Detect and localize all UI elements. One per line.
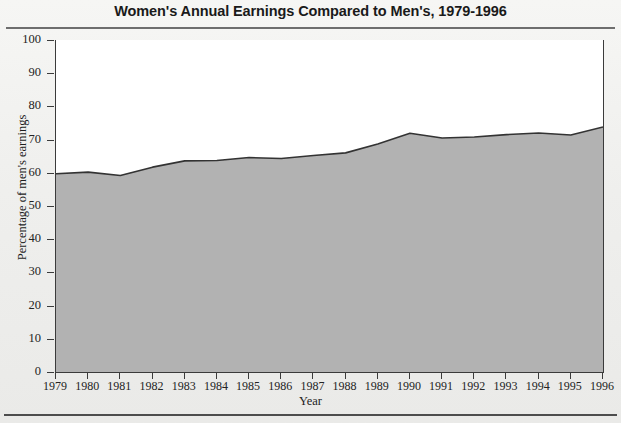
area-series-fill [56,127,603,372]
y-tick-mark [47,206,54,207]
title-divider-rule [6,27,615,29]
y-tick-mark [47,73,54,74]
x-axis-label: Year [0,394,621,409]
x-tick-mark [473,373,474,379]
bottom-divider-rule [4,414,617,416]
x-tick-mark [152,373,153,379]
x-tick-mark [280,373,281,379]
y-tick-mark [47,173,54,174]
x-tick-mark [216,373,217,379]
plot-area [55,40,604,373]
x-tick-mark [184,373,185,379]
y-tick-mark [47,272,54,273]
x-tick-mark [312,373,313,379]
x-tick-mark [570,373,571,379]
x-tick-mark [87,373,88,379]
x-tick-mark [345,373,346,379]
chart-figure: Women's Annual Earnings Compared to Men'… [0,0,621,423]
y-tick-mark [47,106,54,107]
y-axis-label: Percentage of men's earnings [15,68,30,308]
x-tick-mark [409,373,410,379]
y-tick-mark [47,372,54,373]
x-tick-mark [55,373,56,379]
x-tick-label: 1996 [582,379,621,394]
y-tick-label: 10 [9,331,41,346]
title-bar: Women's Annual Earnings Compared to Men'… [0,0,621,30]
y-tick-label: 0 [9,364,41,379]
y-tick-mark [47,306,54,307]
x-tick-mark [377,373,378,379]
y-tick-mark [47,239,54,240]
x-tick-mark [441,373,442,379]
x-tick-mark [248,373,249,379]
x-tick-mark [119,373,120,379]
x-tick-mark [602,373,603,379]
y-tick-mark [47,339,54,340]
chart-title: Women's Annual Earnings Compared to Men'… [0,3,621,19]
x-tick-mark [505,373,506,379]
y-tick-label: 100 [9,32,41,47]
y-tick-mark [47,140,54,141]
area-chart-svg [56,40,603,372]
x-tick-mark [538,373,539,379]
y-tick-mark [47,40,54,41]
